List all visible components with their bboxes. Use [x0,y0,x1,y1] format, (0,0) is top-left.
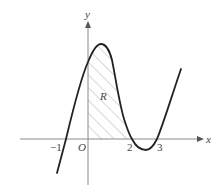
x-axis-arrow-icon [197,136,204,142]
x-axis-label: x [205,133,211,145]
y-axis-arrow-icon [85,21,91,28]
graph-figure: x y O −1 2 3 R [0,0,221,196]
region-label: R [99,90,107,102]
region-r [80,30,140,145]
x-tick-label-neg1: −1 [50,141,62,153]
y-axis-label: y [84,8,90,20]
origin-label: O [78,141,86,153]
x-tick-label-3: 3 [157,141,163,153]
graph-canvas: x y O −1 2 3 R [0,0,221,196]
x-tick-label-2: 2 [127,141,133,153]
